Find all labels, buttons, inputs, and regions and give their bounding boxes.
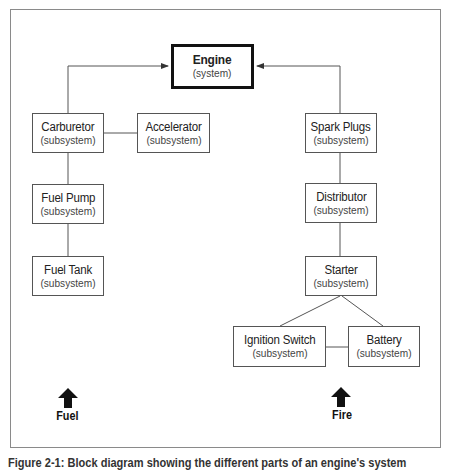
fuel-pump-name: Fuel Pump — [41, 191, 95, 205]
fire-arrow-icon — [330, 387, 352, 407]
starter-box: Starter (subsystem) — [305, 256, 377, 296]
spark-plugs-box: Spark Plugs (subsystem) — [305, 113, 377, 153]
starter-type: (subsystem) — [313, 277, 368, 290]
fuel-label: Fuel — [56, 409, 78, 423]
accelerator-name: Accelerator — [145, 120, 201, 134]
carburetor-box: Carburetor (subsystem) — [32, 113, 104, 153]
figure-caption: Figure 2-1: Block diagram showing the di… — [8, 456, 406, 470]
battery-type: (subsystem) — [356, 347, 411, 360]
engine-type: (system) — [193, 67, 232, 80]
fuel-tank-box: Fuel Tank (subsystem) — [32, 256, 104, 296]
fuel-tank-type: (subsystem) — [40, 277, 95, 290]
spark-plugs-name: Spark Plugs — [311, 120, 371, 134]
fuel-pump-box: Fuel Pump (subsystem) — [32, 184, 104, 224]
fuel-tank-name: Fuel Tank — [44, 263, 92, 277]
battery-box: Battery (subsystem) — [348, 326, 420, 367]
spark-plugs-type: (subsystem) — [313, 134, 368, 147]
engine-system-box: Engine (system) — [171, 44, 254, 89]
ignition-switch-box: Ignition Switch (subsystem) — [233, 326, 326, 367]
accelerator-type: (subsystem) — [146, 134, 201, 147]
accelerator-box: Accelerator (subsystem) — [137, 113, 210, 153]
starter-name: Starter — [324, 263, 357, 277]
distributor-box: Distributor (subsystem) — [305, 183, 377, 223]
distributor-name: Distributor — [316, 190, 366, 204]
fuel-pump-type: (subsystem) — [40, 205, 95, 218]
carburetor-type: (subsystem) — [40, 134, 95, 147]
ignition-switch-type: (subsystem) — [252, 347, 307, 360]
fire-label: Fire — [332, 408, 352, 422]
carburetor-name: Carburetor — [41, 120, 94, 134]
engine-name: Engine — [193, 53, 232, 67]
battery-name: Battery — [366, 333, 401, 347]
fuel-arrow-icon — [57, 388, 79, 408]
ignition-switch-name: Ignition Switch — [244, 333, 315, 347]
distributor-type: (subsystem) — [313, 204, 368, 217]
